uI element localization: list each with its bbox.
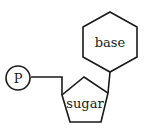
sugar-label: sugar [66, 96, 104, 111]
phosphate-sugar-bond [31, 77, 62, 95]
phosphate-label: P [14, 71, 23, 86]
base-label: base [95, 35, 126, 50]
nucleotide-diagram: base sugar P [0, 0, 148, 132]
base-node: base [83, 12, 137, 72]
phosphate-node: P [6, 66, 30, 90]
sugar-node: sugar [62, 77, 108, 122]
sugar-base-bond [108, 72, 110, 93]
